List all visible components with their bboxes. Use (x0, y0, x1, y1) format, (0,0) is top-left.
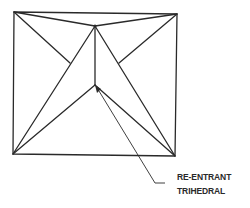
annotation-label: RE-ENTRANT TRIHEDRAL (177, 170, 231, 198)
apex-dot (94, 25, 97, 28)
edge-inner-bottomleft (13, 85, 95, 154)
edge-inner-bottomright (95, 85, 175, 156)
leader-line (99, 91, 165, 183)
annotation-line-2: TRIHEDRAL (177, 184, 231, 198)
edge-apex-bottomright (95, 26, 175, 156)
leader-arrowhead (95, 85, 101, 93)
edge-apex-bottomleft (13, 26, 95, 154)
diagram-canvas: RE-ENTRANT TRIHEDRAL (0, 0, 250, 208)
annotation-line-1: RE-ENTRANT (177, 170, 231, 184)
